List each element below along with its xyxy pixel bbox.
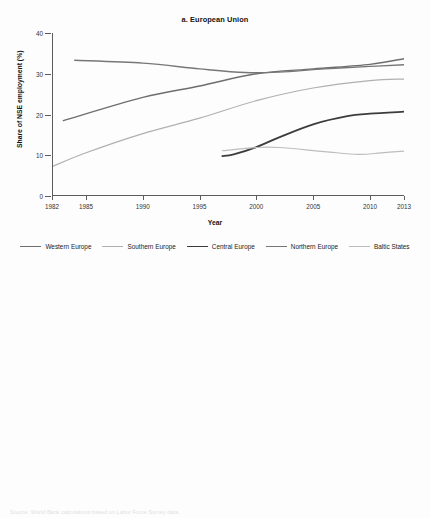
figure-footnote: Source: World Bank calculations based on…	[10, 509, 422, 517]
x-tick	[200, 196, 201, 200]
y-tick	[45, 74, 51, 75]
panel-a-series-lines	[52, 33, 404, 196]
legend-item-central-europe[interactable]: Central Europe	[187, 243, 255, 250]
panel-b-bar-chart: b. Former Soviet Union economies and Tur…	[0, 258, 430, 518]
line-series-northern-europe	[75, 60, 404, 72]
y-tick-label: 20	[36, 111, 43, 118]
x-tick	[370, 196, 371, 200]
y-tick-label: 40	[36, 30, 43, 37]
x-tick-label: 1985	[79, 203, 93, 210]
x-tick-label: 1990	[136, 203, 150, 210]
panel-a-y-axis-label: Share of NSE employment (%)	[16, 51, 23, 148]
x-tick	[256, 196, 257, 200]
y-tick-label: 30	[36, 70, 43, 77]
legend-line-swatch-icon	[266, 246, 287, 247]
panel-a-y-axis	[52, 33, 53, 196]
x-tick	[86, 196, 87, 200]
x-tick-label: 1995	[193, 203, 207, 210]
legend-item-baltic-states[interactable]: Baltic States	[349, 243, 410, 250]
legend-item-northern-europe[interactable]: Northern Europe	[266, 243, 338, 250]
panel-a-line-chart: a. European Union Share of NSE employmen…	[0, 0, 430, 258]
legend-line-swatch-icon	[102, 246, 123, 247]
line-series-central-europe	[222, 112, 404, 156]
legend-label: Southern Europe	[127, 243, 175, 250]
y-tick	[45, 155, 51, 156]
x-tick-label: 2010	[363, 203, 377, 210]
legend-item-southern-europe[interactable]: Southern Europe	[102, 243, 175, 250]
y-tick	[45, 115, 51, 116]
legend-label: Baltic States	[374, 243, 410, 250]
panel-a-x-axis	[52, 195, 404, 196]
legend-label: Central Europe	[212, 243, 255, 250]
x-tick	[404, 196, 405, 200]
legend-label: Western Europe	[45, 243, 91, 250]
x-tick	[52, 196, 53, 200]
legend-line-swatch-icon	[349, 246, 370, 247]
x-tick-label: 1982	[45, 203, 59, 210]
legend-line-swatch-icon	[20, 246, 41, 247]
figure-container: a. European Union Share of NSE employmen…	[0, 0, 430, 518]
panel-a-x-axis-label: Year	[0, 219, 430, 226]
legend-item-western-europe[interactable]: Western Europe	[20, 243, 91, 250]
x-tick	[143, 196, 144, 200]
panel-a-legend: Western EuropeSouthern EuropeCentral Eur…	[0, 243, 430, 250]
y-tick	[45, 33, 51, 34]
x-tick-label: 2000	[249, 203, 263, 210]
x-tick-label: 2013	[397, 203, 411, 210]
y-tick	[45, 196, 51, 197]
panel-a-plot-area: 010203040 198219851990199520002005201020…	[52, 33, 404, 196]
panel-a-title: a. European Union	[0, 15, 430, 24]
y-tick-label: 10	[36, 152, 43, 159]
legend-line-swatch-icon	[187, 246, 208, 248]
x-tick-label: 2005	[306, 203, 320, 210]
y-tick-label: 0	[39, 193, 43, 200]
line-series-baltic-states	[222, 147, 404, 154]
x-tick	[313, 196, 314, 200]
legend-label: Northern Europe	[291, 243, 338, 250]
